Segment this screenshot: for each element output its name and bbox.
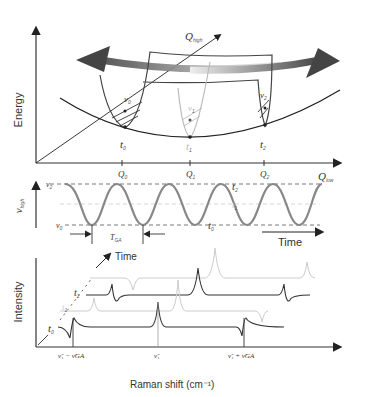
trace-t1-label: t1 [62,302,68,313]
level-t0-label: t0 [208,219,214,232]
time-depth-arrow [96,254,110,268]
raman-spectrum-panel: Intensity Time t0 t1 t2 ν̃₁ − ν̃GA ν̃₁ ν… [12,248,340,390]
freq-v0-label: ν0 [124,94,131,105]
frequency-time-panel: νhigh ν2 ν0 t2 t1 t0 TGA Time [12,180,322,248]
time-depth-label: Time [115,251,137,262]
level-v0-label: ν0 [56,221,63,231]
energy-label: Energy [12,92,24,127]
freq-v2-label: ν2 [260,90,267,101]
tick-q2: Q2 [260,169,270,180]
frequency-oscillation-curve [65,184,322,225]
level-t1-label: t1 [232,200,238,211]
tick-q0: Q0 [118,169,128,180]
q-low-label: Qlow [318,170,334,183]
x-tick-v1-plus-vga: ν̃₁ + ν̃GA [228,352,255,360]
spectrum-trace-t1 [60,280,268,322]
level-v2-label: ν2 [46,180,53,190]
spectrum-trace-t2 [86,268,310,301]
x-tick-v1-minus-vga: ν̃₁ − ν̃GA [58,352,85,360]
raman-diagram-figure: Energy Qhigh Qlow Q0 Q1 Q2 t0 t1 t2 ν0 ν… [0,0,366,397]
freq-v1-label: ν1 [188,103,195,114]
trace-t2-label: t2 [74,287,80,299]
diagram-canvas: Energy Qhigh Qlow Q0 Q1 Q2 t0 t1 t2 ν0 ν… [0,0,366,397]
energy-panel: Energy Qhigh Qlow Q0 Q1 Q2 t0 t1 t2 ν0 ν… [12,28,340,183]
level-t2-label: t2 [232,180,238,193]
time-t2-label: t2 [260,138,266,151]
period-tga-label: TGA [110,233,122,243]
x-tick-v1: ν̃₁ [154,352,160,360]
low-frequency-potential [60,90,340,137]
arrow-head-left-icon [76,46,110,72]
q-high-label: Qhigh [185,30,203,43]
time-t0-label: t0 [120,138,126,151]
intensity-label: Intensity [12,281,24,322]
v-high-label: νhigh [12,199,25,214]
time-axis-label: Time [278,236,302,248]
time-t1-label: t1 [186,140,192,153]
tick-q1: Q1 [186,169,196,180]
raman-shift-label: Raman shift (cm⁻¹) [130,379,214,390]
trace-t0-label: t0 [48,322,54,335]
